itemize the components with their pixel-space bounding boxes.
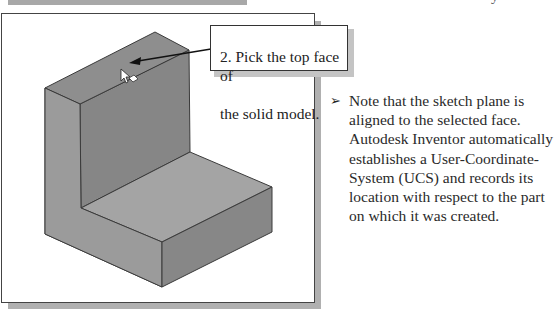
note-line: Autodesk Inventor automatically <box>349 129 554 148</box>
note-line: Note that the sketch plane is <box>349 91 554 110</box>
note-text: Note that the sketch plane is aligned to… <box>349 91 554 225</box>
note-line: establishes a User-Coordinate- <box>349 149 554 168</box>
arrow-bullet-icon: ➢ <box>330 91 341 110</box>
note-line: System (UCS) and records its <box>349 168 554 187</box>
note-line: aligned to the selected face. <box>349 110 554 129</box>
callout-line-2: the solid model. <box>220 105 319 122</box>
callout-box: 2. Pick the top face of the solid model. <box>210 25 348 71</box>
note-line: on which it was created. <box>349 206 554 225</box>
note-line: location with respect to the part <box>349 187 554 206</box>
